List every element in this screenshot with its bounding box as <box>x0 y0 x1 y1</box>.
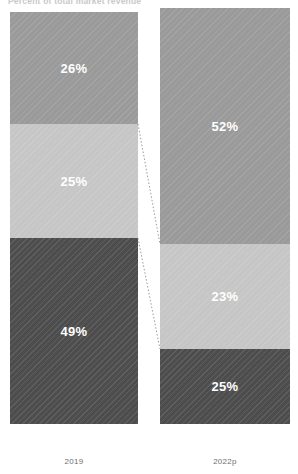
bar-stack-2022p: 52% 23% 25% <box>160 8 290 424</box>
bar-segment-2019-top[interactable]: 26% <box>10 12 138 124</box>
bar-segment-value-label: 26% <box>61 61 88 76</box>
bar-segment-2022p-top[interactable]: 52% <box>160 8 290 244</box>
category-label-2022p: 2022p <box>160 457 290 466</box>
bar-group-2022p: 52% 23% 25% <box>160 8 290 424</box>
bar-segment-value-label: 52% <box>212 119 239 134</box>
bar-segment-value-label: 25% <box>212 379 239 394</box>
connector-line-top <box>138 124 160 244</box>
bar-segment-value-label: 25% <box>61 174 88 189</box>
plot-area: 26% 25% 49% 52% 23% 25% <box>0 0 298 474</box>
bar-segment-value-label: 23% <box>212 289 239 304</box>
bar-segment-2019-middle[interactable]: 25% <box>10 124 138 238</box>
bar-segment-2022p-bottom[interactable]: 25% <box>160 349 290 424</box>
category-label-2019: 2019 <box>10 457 138 466</box>
bar-stack-2019: 26% 25% 49% <box>10 12 138 424</box>
connector-line-bottom <box>138 238 160 349</box>
bar-segment-value-label: 49% <box>61 324 88 339</box>
chart-root: Percent of total market revenue 26% 25% … <box>0 0 298 474</box>
bar-segment-2019-bottom[interactable]: 49% <box>10 238 138 424</box>
bar-group-2019: 26% 25% 49% <box>10 12 138 424</box>
bar-segment-2022p-middle[interactable]: 23% <box>160 244 290 349</box>
